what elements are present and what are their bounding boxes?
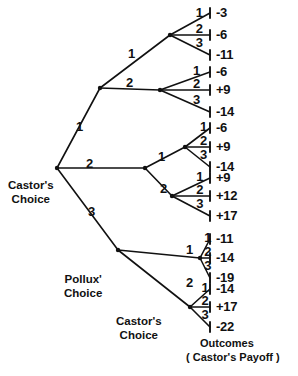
payoff-value-8: +9 [216, 140, 230, 153]
leaf-branch-label-12: 3 [196, 197, 203, 210]
leaf-branch-label-13: 1 [204, 231, 211, 244]
leaf-branch-label-5: 2 [193, 77, 200, 90]
mid-branch-label-2: 2 [126, 76, 133, 89]
leaf-branch-label-18: 3 [201, 308, 208, 321]
mid-branch-label-6: 2 [186, 276, 193, 289]
leaf-branch-label-1: 1 [196, 6, 203, 19]
leaf-branch-label-7: 1 [200, 120, 207, 133]
root-branch-label-1: 1 [76, 120, 83, 133]
payoff-value-2: -6 [216, 28, 227, 41]
mid-branch-label-3: 1 [158, 150, 165, 163]
outcomes-caption-line2: ( Castor's Payoff ) [186, 350, 280, 364]
payoff-value-17: +17 [216, 300, 237, 313]
edge-leaf-2-branch-3 [160, 90, 210, 112]
edge-leaf-1-branch-1 [170, 13, 210, 35]
payoff-value-5: +9 [216, 83, 230, 96]
leaf-branch-label-9: 3 [200, 148, 207, 161]
payoff-value-12: +17 [216, 209, 237, 222]
node-leaf-6 [188, 305, 192, 309]
root-branch-label-3: 3 [88, 205, 95, 218]
node-leaf-3 [183, 145, 187, 149]
payoff-value-6: -14 [216, 105, 234, 118]
payoff-value-1: -3 [216, 6, 227, 19]
leaf-branch-label-11: 2 [196, 183, 203, 196]
leaf-branch-label-17: 2 [201, 294, 208, 307]
node-mid-3 [116, 248, 120, 252]
payoff-value-3: -11 [216, 48, 233, 61]
node-leaf-1 [168, 33, 172, 37]
edge-leaf-4-branch-3 [172, 196, 210, 216]
node-label-castors-choice-level3: Castor's Choice [116, 314, 162, 343]
node-mid-2 [143, 166, 147, 170]
edge-leaf-1-branch-3 [170, 35, 210, 55]
node-root [55, 166, 59, 170]
leaf-branch-label-8: 2 [200, 134, 207, 147]
payoff-value-11: +12 [216, 189, 237, 202]
node-leaf-2 [158, 88, 162, 92]
payoff-value-18: -22 [216, 320, 234, 333]
leaf-branch-label-2: 2 [196, 22, 203, 35]
node-leaf-5 [198, 256, 202, 260]
payoff-value-4: -6 [216, 65, 227, 78]
edge-mid-2-branch-2 [145, 168, 172, 196]
payoff-value-16: -14 [216, 282, 234, 295]
mid-branch-label-1: 1 [128, 47, 135, 60]
edge-leaf-2-branch-1 [160, 72, 210, 90]
edge-leaf-4-branch-1 [172, 178, 210, 196]
outcomes-caption-line1: Outcomes [200, 336, 254, 350]
node-label-pollux-choice: Pollux' Choice [64, 272, 102, 301]
payoff-value-10: +9 [216, 171, 230, 184]
root-branch-label-2: 2 [86, 157, 93, 170]
mid-branch-label-4: 2 [160, 182, 167, 195]
node-mid-1 [98, 86, 102, 90]
payoff-value-13: -11 [216, 232, 233, 245]
node-leaf-4 [170, 194, 174, 198]
edge-mid-3-branch-2 [118, 250, 190, 307]
leaf-branch-label-6: 3 [193, 93, 200, 106]
edge-mid-1-branch-1 [100, 35, 170, 88]
leaf-branch-label-14: 2 [204, 245, 211, 258]
mid-branch-label-5: 1 [186, 243, 193, 256]
leaf-branch-label-3: 3 [196, 36, 203, 49]
payoff-value-14: -14 [216, 251, 234, 264]
node-label-castors-choice-root: Castor's Choice [8, 178, 54, 207]
payoff-value-7: -6 [216, 121, 227, 134]
leaf-branch-label-15: 3 [204, 259, 211, 272]
